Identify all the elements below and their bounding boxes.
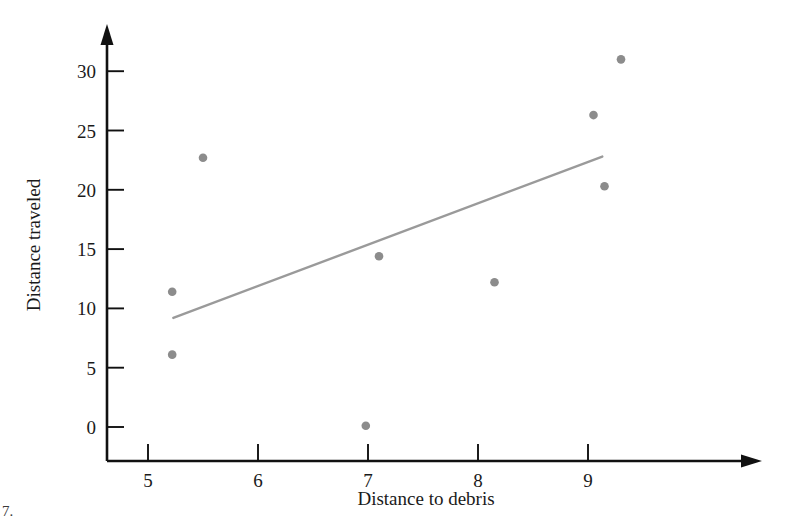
y-tick-label: 15: [77, 239, 96, 260]
scatter-plot-figure: 051015202530 56789 Distance to debris Di…: [0, 0, 805, 530]
y-tick-label: 10: [77, 298, 96, 319]
y-tick-label: 20: [77, 180, 96, 201]
chart-svg: 051015202530 56789 Distance to debris Di…: [0, 0, 805, 530]
corner-figure-number: 7.: [2, 503, 13, 519]
data-point: [168, 287, 177, 296]
data-point: [199, 153, 208, 162]
data-point: [362, 422, 371, 431]
y-tick-group: 051015202530: [77, 61, 124, 438]
trend-line-group: [173, 157, 602, 318]
x-tick-label: 9: [583, 470, 593, 491]
y-axis: [101, 24, 114, 461]
y-axis-arrowhead: [101, 24, 114, 45]
x-tick-label: 6: [253, 470, 263, 491]
data-point: [589, 111, 598, 120]
data-point: [490, 278, 499, 287]
y-axis-title: Distance traveled: [23, 178, 44, 311]
x-axis-arrowhead: [741, 455, 762, 468]
data-point: [375, 252, 384, 261]
data-points-group: [168, 55, 625, 430]
x-tick-group: 56789: [143, 444, 593, 491]
data-point: [617, 55, 626, 64]
x-axis: [107, 455, 762, 468]
x-axis-title: Distance to debris: [357, 488, 494, 509]
y-tick-label: 0: [87, 417, 97, 438]
x-tick-label: 5: [143, 470, 153, 491]
data-point: [168, 350, 177, 359]
y-tick-label: 5: [87, 358, 97, 379]
y-tick-label: 25: [77, 121, 96, 142]
y-tick-label: 30: [77, 61, 96, 82]
regression-trend-line: [173, 157, 602, 318]
data-point: [600, 182, 609, 191]
